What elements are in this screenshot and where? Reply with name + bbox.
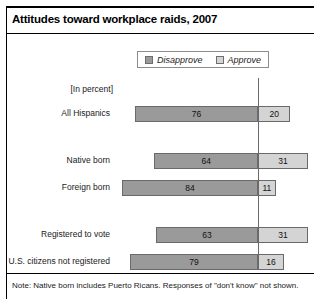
bar-segment-approve: 16 bbox=[258, 254, 284, 270]
bar-segment-approve: 11 bbox=[258, 180, 276, 196]
bar-segment-disapprove: 63 bbox=[156, 227, 258, 243]
bar-segment-approve: 20 bbox=[258, 106, 290, 122]
unit-note: [In percent] bbox=[70, 84, 113, 94]
row-label: All Hispanics bbox=[0, 108, 110, 118]
bar-value-disapprove: 79 bbox=[189, 258, 198, 267]
legend-label-approve: Approve bbox=[228, 55, 262, 65]
bar-segment-approve: 31 bbox=[258, 153, 308, 169]
bar-segment-approve: 31 bbox=[258, 227, 308, 243]
bar-value-disapprove: 84 bbox=[185, 184, 194, 193]
chart-title: Attitudes toward workplace raids, 2007 bbox=[12, 13, 217, 25]
bar-value-disapprove: 76 bbox=[192, 110, 201, 119]
stacked-bar: 7620 bbox=[135, 106, 291, 122]
legend-item-disapprove: Disapprove bbox=[145, 55, 203, 65]
stacked-bar: 6431 bbox=[154, 153, 308, 169]
legend-item-approve: Approve bbox=[216, 55, 262, 65]
legend-swatch-approve bbox=[216, 56, 224, 64]
bar-value-approve: 11 bbox=[262, 184, 271, 193]
table-row: Native born6431 bbox=[0, 153, 320, 169]
table-row: Registered to vote6331 bbox=[0, 227, 320, 243]
bar-segment-disapprove: 64 bbox=[154, 153, 258, 169]
bar-segment-disapprove: 84 bbox=[122, 180, 258, 196]
bar-value-approve: 31 bbox=[278, 157, 287, 166]
row-label: Registered to vote bbox=[0, 229, 110, 239]
table-row: Foreign born8411 bbox=[0, 180, 320, 196]
stacked-bar: 8411 bbox=[122, 180, 276, 196]
table-row: All Hispanics7620 bbox=[0, 106, 320, 122]
table-row: U.S. citizens not registered7916 bbox=[0, 254, 320, 270]
bar-value-approve: 31 bbox=[278, 231, 287, 240]
bar-value-disapprove: 63 bbox=[202, 231, 211, 240]
plot-area: [In percent] All Hispanics7620Native bor… bbox=[0, 78, 320, 270]
row-label: Foreign born bbox=[0, 182, 110, 192]
bar-value-approve: 16 bbox=[266, 258, 275, 267]
stacked-bar: 6331 bbox=[156, 227, 308, 243]
top-rule bbox=[6, 6, 314, 8]
bar-value-approve: 20 bbox=[269, 110, 278, 119]
legend-swatch-disapprove bbox=[145, 56, 153, 64]
bar-segment-disapprove: 79 bbox=[130, 254, 258, 270]
bar-value-disapprove: 64 bbox=[201, 157, 210, 166]
chart-figure: Attitudes toward workplace raids, 2007 D… bbox=[0, 0, 320, 303]
chart-legend: Disapprove Approve bbox=[137, 51, 269, 68]
row-label: Native born bbox=[0, 155, 110, 165]
stacked-bar: 7916 bbox=[130, 254, 284, 270]
row-label: U.S. citizens not registered bbox=[0, 256, 110, 266]
chart-footnote: Note: Native born includes Puerto Ricans… bbox=[12, 281, 298, 290]
bar-segment-disapprove: 76 bbox=[135, 106, 258, 122]
legend-label-disapprove: Disapprove bbox=[157, 55, 203, 65]
title-divider-rule bbox=[6, 33, 314, 34]
note-divider-rule bbox=[6, 273, 314, 274]
